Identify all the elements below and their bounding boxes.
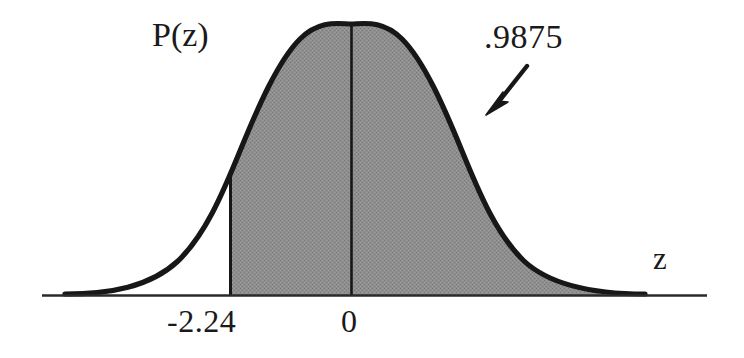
shaded-area-region: [65, 24, 645, 295]
density-axis-label: P(z): [152, 18, 209, 52]
tick-label-negative-2-24: -2.24: [167, 305, 236, 337]
arrow-down-left-icon: [486, 66, 527, 115]
tick-label-zero: 0: [341, 305, 357, 337]
area-annotation-label: .9875: [484, 20, 563, 54]
normal-curve-figure: P(z) .9875 z -2.24 0: [0, 0, 744, 358]
distribution-plot: [0, 0, 744, 358]
z-axis-label: z: [653, 243, 667, 274]
